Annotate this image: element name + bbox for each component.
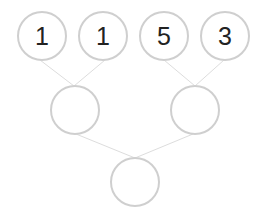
number-tree-puzzle: 1 1 5 3 — [0, 0, 261, 222]
answer-node-row2-2[interactable] — [170, 85, 220, 135]
connector-line — [135, 134, 193, 158]
tree-node-row1-2: 1 — [78, 11, 128, 61]
connector-line — [195, 60, 224, 86]
connector-line — [164, 60, 195, 86]
connector-line — [76, 134, 135, 158]
connector-line — [74, 60, 105, 86]
tree-node-row1-3: 5 — [139, 11, 189, 61]
answer-node-row3-1[interactable] — [110, 157, 160, 207]
connector-line — [40, 60, 74, 86]
tree-node-row1-1: 1 — [17, 11, 67, 61]
answer-node-row2-1[interactable] — [50, 85, 100, 135]
tree-node-row1-4: 3 — [200, 11, 250, 61]
